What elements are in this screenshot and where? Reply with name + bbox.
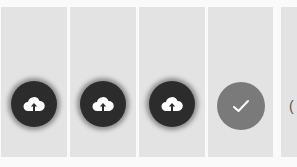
frame-4 — [208, 7, 273, 157]
frame-3 — [139, 7, 205, 157]
frame-5: ( — [281, 7, 297, 157]
spinner-icon: ( — [289, 98, 294, 114]
check-icon — [232, 99, 250, 113]
upload-complete-button[interactable] — [217, 82, 265, 130]
frame-1 — [1, 7, 67, 157]
frame-2 — [70, 7, 136, 157]
cloud-upload-icon — [23, 96, 45, 112]
cloud-upload-icon — [161, 96, 183, 112]
cloud-upload-icon — [92, 96, 114, 112]
upload-button[interactable] — [11, 81, 57, 127]
upload-button[interactable] — [80, 81, 126, 127]
upload-button[interactable] — [149, 81, 195, 127]
